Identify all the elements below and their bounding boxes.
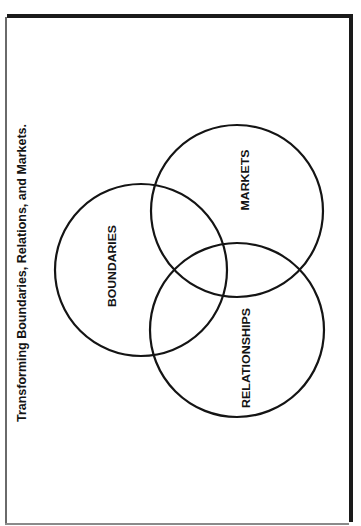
venn-diagram: Transforming Boundaries, Relations, and … (0, 0, 361, 526)
circle-relationships (150, 243, 324, 417)
label-boundaries: BOUNDARIES (107, 225, 118, 307)
label-relationships: RELATIONSHIPS (241, 308, 252, 408)
circle-boundaries (55, 184, 227, 356)
diagram-title: Transforming Boundaries, Relations, and … (15, 124, 29, 422)
circle-markets (151, 125, 323, 297)
label-markets: MARKETS (240, 149, 251, 210)
